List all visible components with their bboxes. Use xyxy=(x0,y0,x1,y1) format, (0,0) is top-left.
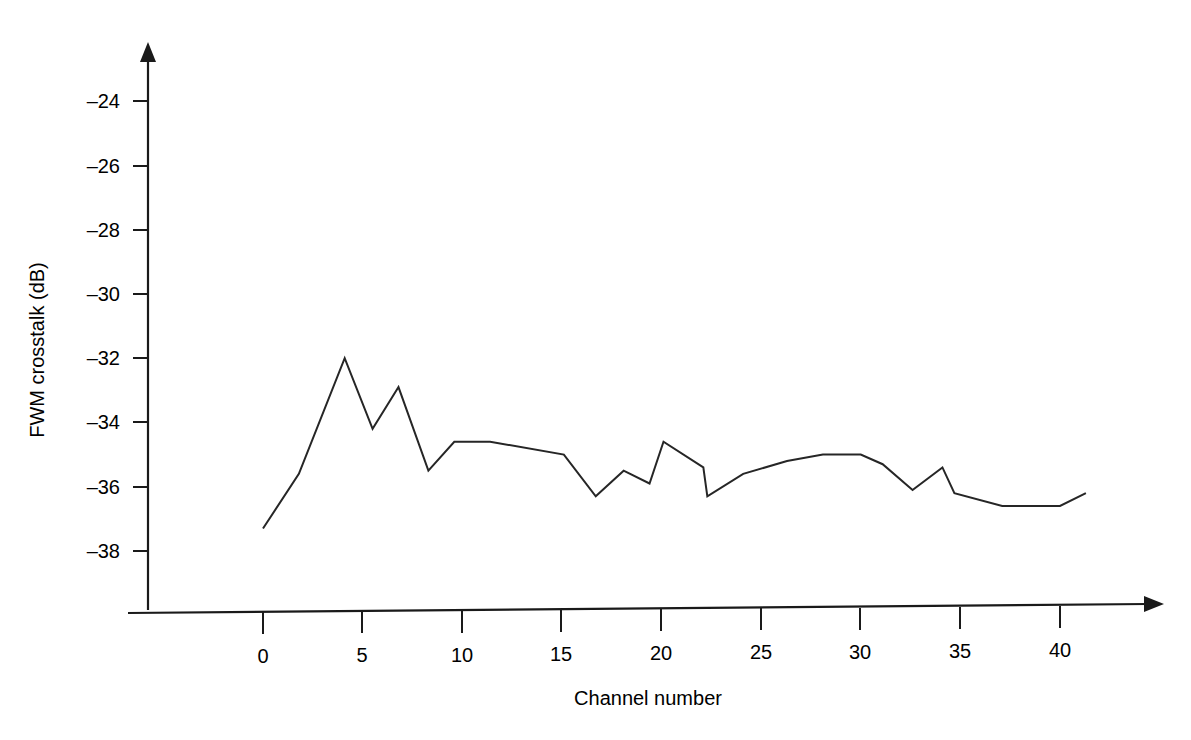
x-tick-label: 5 xyxy=(356,644,367,666)
y-tick-label: –36 xyxy=(87,476,120,498)
x-axis-line xyxy=(128,604,1148,613)
x-tick-label: 30 xyxy=(849,641,871,663)
y-tick-label: –38 xyxy=(87,540,120,562)
y-axis-title: FWM crosstalk (dB) xyxy=(26,262,48,438)
x-axis-title: Channel number xyxy=(574,687,722,709)
y-tick-label: –32 xyxy=(87,347,120,369)
chart-figure: –24 –26 –28 –30 –32 –34 –36 –38 0 5 10 1… xyxy=(0,0,1191,740)
x-tick-label: 25 xyxy=(750,641,772,663)
y-axis-arrow-icon xyxy=(140,42,156,62)
x-tick-label: 15 xyxy=(550,643,572,665)
y-tick-label: –30 xyxy=(87,283,120,305)
y-tick-label: –34 xyxy=(87,411,120,433)
y-tick-label: –26 xyxy=(87,155,120,177)
y-tick-group xyxy=(133,101,148,551)
data-series-line xyxy=(263,358,1086,528)
x-axis-arrow-icon xyxy=(1144,596,1164,612)
x-tick-label: 0 xyxy=(257,645,268,667)
y-tick-label: –24 xyxy=(87,90,120,112)
y-tick-label: –28 xyxy=(87,219,120,241)
x-tick-label: 35 xyxy=(949,640,971,662)
x-tick-label: 40 xyxy=(1049,639,1071,661)
x-tick-label: 10 xyxy=(451,644,473,666)
chart-canvas: –24 –26 –28 –30 –32 –34 –36 –38 0 5 10 1… xyxy=(0,0,1191,740)
x-tick-label: 20 xyxy=(650,642,672,664)
